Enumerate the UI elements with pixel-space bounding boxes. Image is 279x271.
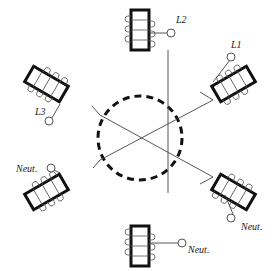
label-l3: L3 [34, 106, 46, 117]
coil-lower-right [209, 169, 259, 215]
center-dashed-circle [98, 96, 182, 180]
terminal-neut-right-icon [227, 214, 235, 222]
winding-diagram: L2 L1 L3 Neut. Neut. Neut. [0, 0, 279, 271]
triangle-connections [92, 50, 213, 193]
terminal-l3-icon [45, 117, 53, 125]
coil-upper-left [22, 61, 72, 107]
label-neut-right: Neut. [240, 221, 262, 232]
coil-bottom [125, 226, 155, 266]
coil-top [125, 10, 155, 50]
coil-upper-right [209, 61, 259, 107]
label-l2: L2 [175, 14, 187, 25]
label-l1: L1 [230, 39, 242, 50]
coil-lower-left [22, 169, 72, 215]
terminal-l1-icon [227, 53, 235, 61]
terminal-neut-bottom-icon [178, 239, 186, 247]
label-neut-bottom: Neut. [187, 244, 209, 255]
label-neut-left: Neut. [15, 163, 37, 174]
terminal-l2-icon [167, 29, 175, 37]
terminal-neut-left-icon [47, 164, 55, 172]
